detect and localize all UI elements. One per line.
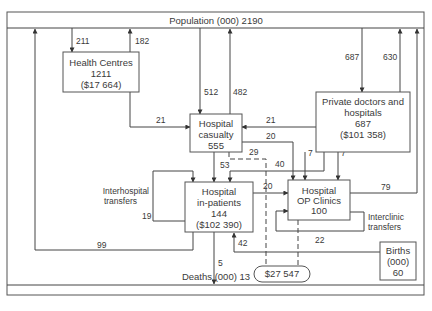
births-name: Births xyxy=(386,245,411,256)
flow-label-private-to-inp: 40 xyxy=(275,159,285,169)
population-band: Population (000) 2190 xyxy=(7,15,424,28)
private-name-1: Private doctors and xyxy=(322,96,404,107)
flow-label-cas-dashed: 29 xyxy=(249,147,259,157)
node-health-centres: Health Centres 1211 ($17 664) xyxy=(63,52,139,92)
births-unit: (000) xyxy=(387,256,409,267)
inp-name-2: in-patients xyxy=(197,197,241,208)
cas-name-2: casualty xyxy=(199,129,234,140)
hc-cost: ($17 664) xyxy=(81,79,122,90)
flow-label-births-to-inp: 42 xyxy=(238,238,248,248)
flow-label-pop-to-private: 687 xyxy=(345,52,359,62)
deaths-label: Deaths (000) 13 xyxy=(182,271,250,282)
interclinic-label-1: Interclinic xyxy=(368,212,405,222)
flow-label-private-to-cas: 21 xyxy=(266,115,276,125)
node-births: Births (000) 60 xyxy=(380,242,416,280)
node-op-clinics: Hospital OP Clinics 100 xyxy=(288,180,350,220)
cas-count: 555 xyxy=(208,140,224,151)
flow-births-to-inp xyxy=(234,233,380,252)
node-hospital-casualty: Hospital casualty 555 xyxy=(190,114,242,152)
flow-label-interhospital: 19 xyxy=(142,211,152,221)
flow-label-op-to-pop: 79 xyxy=(381,182,391,192)
outpatient-cost-value: $27 547 xyxy=(265,268,299,279)
flow-label-cas-to-inp: 53 xyxy=(220,160,230,170)
op-count: 100 xyxy=(311,205,327,216)
flow-label-inp-to-deaths: 5 xyxy=(218,258,223,268)
flow-label-cas-to-op: 20 xyxy=(266,131,276,141)
flow-label-private-to-op-a: 7 xyxy=(308,148,313,158)
health-flow-diagram: Population (000) 2190 Deaths (000) 13 21… xyxy=(0,0,432,311)
interhospital-label-2: transfers xyxy=(104,196,137,206)
flow-label-pop-to-cas: 512 xyxy=(204,87,218,97)
private-name-2: hospitals xyxy=(344,107,382,118)
births-count: 60 xyxy=(393,267,404,278)
hc-name: Health Centres xyxy=(69,57,133,68)
inp-cost: ($102 390) xyxy=(196,219,242,230)
flow-label-pop-to-hc: 211 xyxy=(76,36,90,46)
flow-label-cas-to-pop: 482 xyxy=(233,87,247,97)
flow-label-private-to-pop: 630 xyxy=(383,52,397,62)
node-hospital-inpatients: Hospital in-patients 144 ($102 390) xyxy=(185,182,253,232)
flow-label-hc-to-pop: 182 xyxy=(135,36,149,46)
cas-name-1: Hospital xyxy=(199,118,233,129)
interclinic-label-2: transfers xyxy=(368,222,401,232)
private-cost: ($101 358) xyxy=(340,129,386,140)
hc-count: 1211 xyxy=(91,68,111,79)
population-label: Population (000) 2190 xyxy=(169,15,263,26)
flow-label-interclinic: 22 xyxy=(315,235,325,245)
deaths-band: Deaths (000) 13 xyxy=(7,271,424,285)
private-count: 687 xyxy=(355,118,371,129)
node-outpatient-cost: $27 547 xyxy=(254,266,310,282)
interhospital-label-1: Interhospital xyxy=(103,186,149,196)
inp-name-1: Hospital xyxy=(202,186,236,197)
flow-label-inp-to-pop: 99 xyxy=(97,240,107,250)
inp-count: 144 xyxy=(211,208,227,219)
flow-label-hc-to-cas: 21 xyxy=(156,115,166,125)
flow-label-inp-to-op: 20 xyxy=(263,181,273,191)
node-private-doctors: Private doctors and hospitals 687 ($101 … xyxy=(316,92,410,152)
